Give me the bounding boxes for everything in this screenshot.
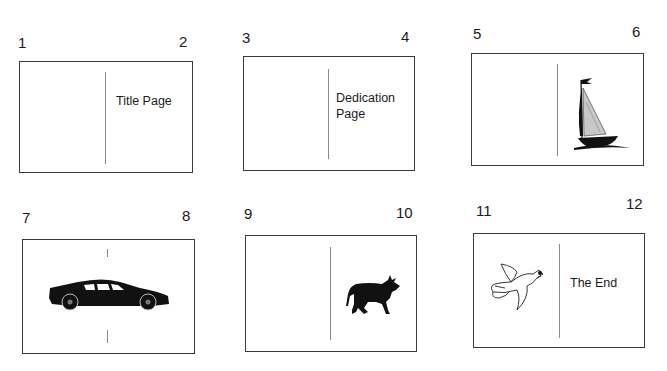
sailboat-icon [574,72,634,154]
page-number-right: 12 [626,196,643,211]
page-number-right: 4 [401,29,409,44]
page-number-left: 9 [244,206,252,221]
spine-divider [559,244,560,338]
page-number-right: 8 [182,208,190,223]
page-number-left: 7 [22,210,30,225]
page-number-left: 5 [473,26,481,41]
spine-mark-top [107,249,108,257]
dedication-page-text: Dedication Page [336,90,395,122]
book-spread-sailboat [471,53,644,166]
page-number-left: 3 [242,30,250,45]
book-spread-dedication: Dedication Page [243,56,415,171]
spine-divider [328,69,329,159]
seagull-icon [487,262,549,318]
spine-divider [105,72,106,164]
dedication-line-2: Page [336,106,395,122]
page-number-right: 6 [632,24,640,39]
page-number-left: 11 [476,203,492,218]
bull-icon [346,272,402,316]
book-spread-the-end: The End [473,233,645,348]
the-end-text: The End [570,275,617,291]
page-number-right: 10 [396,205,413,220]
book-spread-car [22,239,195,354]
spine-mark-bottom [107,330,108,343]
dedication-line-1: Dedication [336,90,395,106]
page-number-right: 2 [179,34,187,49]
page-number-left: 1 [18,35,26,50]
spine-divider [330,247,331,340]
spine-divider [557,64,558,156]
title-page-text: Title Page [116,93,172,109]
sports-car-icon [48,278,170,312]
book-spread-bull [245,235,417,352]
book-spread-title: Title Page [19,61,193,173]
